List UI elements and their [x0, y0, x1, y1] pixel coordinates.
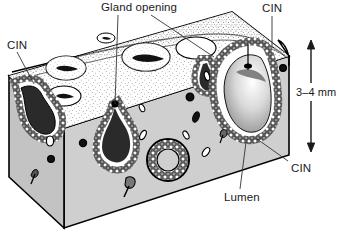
scale-arrow-head-up: [307, 40, 314, 49]
gland-opening-1: [46, 56, 86, 80]
scale-arrow-head-down: [307, 143, 314, 152]
label-gland-opening: Gland opening: [101, 1, 177, 13]
anatomical-block-diagram: [0, 0, 339, 233]
label-cin-left: CIN: [7, 39, 27, 51]
label-cin-bottom-right: CIN: [291, 162, 311, 174]
gland-cross-section-ring: [147, 139, 189, 181]
label-depth-scale: 3–4 mm: [296, 86, 336, 98]
gland-opening-4: [97, 33, 115, 43]
label-lumen: Lumen: [224, 191, 260, 203]
label-cin-top-right: CIN: [262, 2, 282, 14]
gland-crypt-right: [213, 42, 279, 141]
gland-right-neck-dot: [244, 63, 252, 68]
gland-opening-3: [122, 43, 170, 71]
figure-canvas: Gland opening CIN CIN CIN Lumen 3–4 mm: [0, 0, 339, 233]
